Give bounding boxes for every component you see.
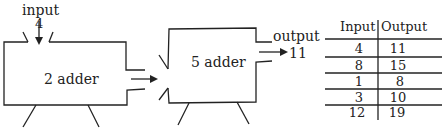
- table-cell: 12: [349, 105, 366, 120]
- table-cell: 4: [355, 41, 363, 56]
- table-cell: 1: [355, 74, 363, 89]
- table-cell: 19: [389, 105, 406, 120]
- table-cell: 11: [390, 41, 407, 56]
- table-cell: 8: [396, 74, 404, 89]
- machine-1-label: 2 adder: [44, 71, 99, 87]
- input-arrowhead-icon: [35, 37, 43, 45]
- input-value: 4: [35, 16, 43, 31]
- table-header-input: Input: [340, 19, 376, 34]
- io-table-rules: [325, 20, 442, 120]
- table-cell: 15: [390, 58, 407, 73]
- adder-machines-diagram: input 4 2 adder 5 adder output 11 Input …: [0, 0, 445, 139]
- machine-2-label: 5 adder: [191, 54, 246, 70]
- output-label: output: [273, 28, 320, 44]
- table-cell: 10: [390, 90, 407, 105]
- table-cell: 8: [355, 58, 363, 73]
- transfer-arrowhead-icon: [150, 75, 158, 83]
- machine-5-adder: [159, 28, 272, 125]
- output-arrowhead-icon: [280, 48, 288, 56]
- table-cell: 3: [355, 90, 363, 105]
- table-header-output: Output: [381, 19, 428, 34]
- output-value: 11: [289, 45, 307, 61]
